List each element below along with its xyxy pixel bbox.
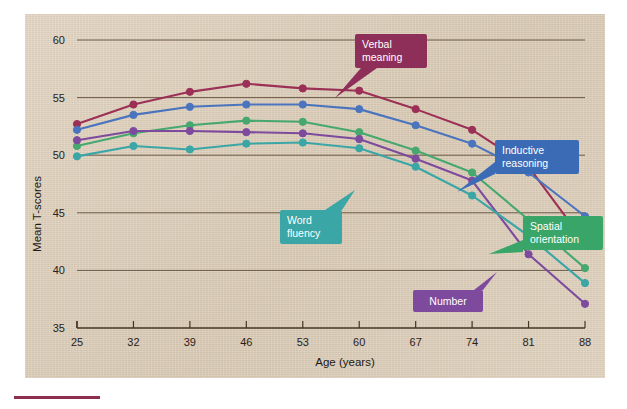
- callout-tail: [489, 240, 523, 254]
- data-point: [469, 140, 476, 147]
- data-point: [299, 118, 306, 125]
- y-axis-title: Mean T-scores: [31, 176, 43, 252]
- data-point: [73, 153, 80, 160]
- data-point: [412, 122, 419, 129]
- callout-label-line1: Spatial: [530, 220, 562, 232]
- data-point: [130, 111, 137, 118]
- data-point: [243, 80, 250, 87]
- x-tick-label: 88: [579, 336, 591, 348]
- y-axis-ticks: 354045505560: [53, 34, 65, 334]
- data-point: [356, 106, 363, 113]
- data-series: [73, 80, 588, 307]
- data-point: [581, 300, 588, 307]
- data-point: [186, 103, 193, 110]
- data-point: [299, 101, 306, 108]
- x-tick-label: 46: [240, 336, 252, 348]
- x-tick-label: 53: [297, 336, 309, 348]
- data-point: [243, 129, 250, 136]
- data-point: [356, 145, 363, 152]
- axis-lines: [77, 321, 585, 328]
- data-point: [73, 126, 80, 133]
- y-tick-label: 40: [53, 264, 65, 276]
- data-point: [581, 264, 588, 271]
- figure-page: 354045505560 25323946536067748188 Verbal…: [0, 0, 627, 409]
- callout-number: Number: [413, 272, 497, 312]
- data-point: [186, 127, 193, 134]
- data-point: [356, 87, 363, 94]
- data-point: [299, 85, 306, 92]
- line-chart: 354045505560 25323946536067748188 Verbal…: [25, 14, 605, 378]
- data-point: [299, 130, 306, 137]
- bottom-accent-rule: [14, 396, 100, 399]
- data-point: [130, 127, 137, 134]
- x-tick-label: 81: [522, 336, 534, 348]
- x-tick-label: 25: [71, 336, 83, 348]
- callout-label-line1: Word: [287, 214, 312, 226]
- callout-spatial-orientation: Spatialorientation: [489, 216, 603, 254]
- data-point: [130, 101, 137, 108]
- data-point: [186, 146, 193, 153]
- data-point: [412, 163, 419, 170]
- x-tick-label: 32: [127, 336, 139, 348]
- y-tick-label: 60: [53, 34, 65, 46]
- callout-label-line2: meaning: [362, 51, 402, 63]
- data-point: [130, 142, 137, 149]
- callout-verbal-meaning: Verbalmeaning: [335, 34, 427, 98]
- data-point: [73, 137, 80, 144]
- callout-tail: [474, 272, 497, 290]
- data-point: [243, 101, 250, 108]
- callout-word-fluency: Wordfluency: [280, 190, 355, 244]
- callout-label-line2: reasoning: [502, 157, 548, 169]
- y-tick-label: 45: [53, 207, 65, 219]
- data-point: [525, 251, 532, 258]
- data-point: [243, 140, 250, 147]
- callout-label-line2: orientation: [530, 233, 579, 245]
- callout-label: Number: [429, 295, 467, 307]
- y-tick-label: 35: [53, 322, 65, 334]
- x-tick-label: 60: [353, 336, 365, 348]
- data-point: [469, 126, 476, 133]
- data-point: [356, 135, 363, 142]
- data-point: [412, 106, 419, 113]
- x-axis-title: Age (years): [315, 356, 375, 368]
- data-point: [412, 147, 419, 154]
- data-point: [469, 192, 476, 199]
- data-point: [243, 117, 250, 124]
- x-axis-ticks: 25323946536067748188: [71, 321, 591, 348]
- data-point: [186, 88, 193, 95]
- callout-label-line1: Inductive: [502, 144, 544, 156]
- x-tick-label: 67: [410, 336, 422, 348]
- data-point: [581, 279, 588, 286]
- data-point: [412, 155, 419, 162]
- x-tick-label: 39: [184, 336, 196, 348]
- data-point: [469, 169, 476, 176]
- y-tick-label: 50: [53, 149, 65, 161]
- data-point: [299, 139, 306, 146]
- x-tick-label: 74: [466, 336, 478, 348]
- callout-label-line1: Verbal: [362, 38, 392, 50]
- y-tick-label: 55: [53, 92, 65, 104]
- data-point: [356, 129, 363, 136]
- callout-label-line2: fluency: [287, 227, 321, 239]
- callout-tail: [325, 190, 355, 210]
